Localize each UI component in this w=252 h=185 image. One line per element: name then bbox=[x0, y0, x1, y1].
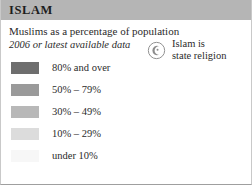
legend-list: 80% and over 50% – 79% 30% – 49% 10% – 2… bbox=[9, 57, 141, 167]
legend-label: 10% – 29% bbox=[52, 129, 101, 140]
list-item: under 10% bbox=[9, 145, 141, 167]
list-item: 50% – 79% bbox=[9, 79, 141, 101]
legend-swatch bbox=[11, 128, 39, 140]
legend-subtitle-primary: Muslims as a percentage of population bbox=[9, 25, 243, 38]
page-title: ISLAM bbox=[9, 4, 53, 17]
islam-map-legend-panel: ISLAM Muslims as a percentage of populat… bbox=[0, 0, 252, 185]
list-item: 30% – 49% bbox=[9, 101, 141, 123]
legend-swatch bbox=[11, 62, 39, 74]
panel-title-bar: ISLAM bbox=[1, 0, 251, 20]
legend-label: 30% – 49% bbox=[52, 107, 101, 118]
legend-swatch bbox=[11, 84, 39, 96]
state-religion-key: Islam is state religion bbox=[147, 38, 227, 62]
legend-label: 50% – 79% bbox=[52, 85, 101, 96]
crescent-star-icon bbox=[147, 41, 166, 60]
legend-label: 80% and over bbox=[52, 63, 110, 74]
legend-body: Muslims as a percentage of population 20… bbox=[1, 20, 251, 184]
list-item: 10% – 29% bbox=[9, 123, 141, 145]
legend-swatch bbox=[11, 106, 39, 118]
state-religion-line2: state religion bbox=[172, 50, 227, 62]
state-religion-line1: Islam is bbox=[172, 38, 227, 50]
state-religion-text: Islam is state religion bbox=[172, 38, 227, 62]
legend-label: under 10% bbox=[52, 151, 98, 162]
legend-swatch bbox=[11, 150, 39, 162]
list-item: 80% and over bbox=[9, 57, 141, 79]
